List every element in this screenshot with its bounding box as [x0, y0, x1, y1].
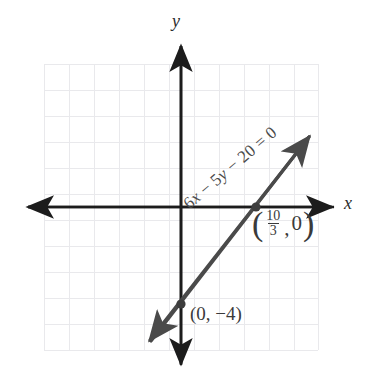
point-label-x-intercept: ( 10 3 , 0 )	[252, 209, 314, 239]
fraction-denominator: 3	[268, 223, 279, 238]
label-zero: 0	[292, 213, 303, 234]
fraction-numerator: 10	[264, 209, 282, 223]
x-axis-label: x	[344, 193, 352, 214]
coordinate-plane	[0, 0, 377, 373]
fraction-ten-thirds: 10 3	[264, 209, 282, 239]
point-marker-y-intercept	[176, 299, 185, 308]
close-paren: )	[303, 210, 314, 238]
open-paren: (	[252, 210, 263, 238]
point-label-y-intercept: (0, −4)	[190, 303, 242, 325]
figure-canvas: y x 6x − 5y − 20 = 0 (0, −4) ( 10 3 , 0 …	[0, 0, 377, 373]
label-comma: ,	[284, 218, 289, 239]
y-axis-label: y	[172, 11, 180, 32]
